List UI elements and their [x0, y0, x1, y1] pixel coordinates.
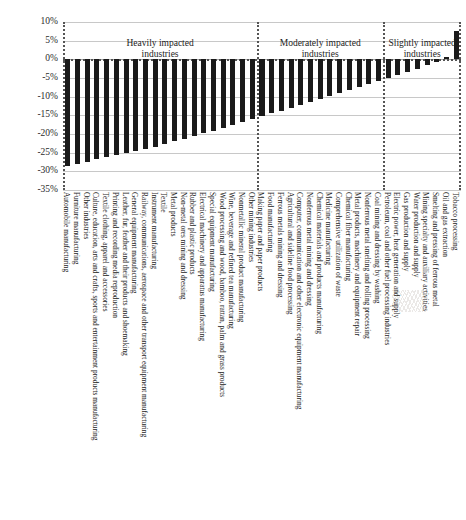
bar	[192, 59, 197, 136]
category-label: Textile	[160, 192, 167, 212]
y-tick-label: -10%	[37, 92, 58, 102]
bar	[347, 59, 352, 90]
bar	[162, 59, 167, 144]
group-title-line: Heavily impacted	[100, 38, 220, 49]
category-label: Oil and gas extraction	[441, 192, 448, 257]
y-tick-label: -20%	[37, 129, 58, 139]
category-label: Ferrous metals mining and dressing	[276, 192, 283, 298]
category-label: Computer, communication and other electr…	[296, 192, 303, 409]
category-label: Gas production and supply	[403, 192, 410, 271]
bar	[153, 59, 158, 146]
category-label: Wood processing and wood, bamboo, rattan…	[218, 192, 225, 397]
bar	[337, 59, 342, 93]
y-tick-label: 10%	[41, 17, 58, 27]
group-title-line: Slightly impacted	[362, 38, 466, 49]
category-label: Chemical materials and products manufact…	[315, 192, 322, 334]
category-label: Printing and recording media reproductio…	[111, 192, 118, 318]
bar	[357, 59, 362, 87]
category-label: Making paper and paper products	[257, 192, 264, 291]
category-label: Leather, fur, feather and their products…	[121, 192, 128, 356]
category-label: Food manufacturing	[267, 192, 274, 252]
category-label: Comprehensive utilization of waste	[335, 192, 342, 297]
page-smudge-artifact	[392, 290, 426, 312]
category-label: Petroleum, coal and other fuel processin…	[383, 192, 390, 345]
category-label: Smelting and pressing of ferrous metal	[432, 192, 439, 307]
bar	[114, 59, 119, 155]
bar	[415, 59, 420, 68]
bar	[250, 59, 255, 119]
bar	[395, 59, 400, 75]
bar	[75, 59, 80, 164]
bar	[405, 59, 410, 72]
bar	[172, 59, 177, 141]
category-label: Agricultural and sideline food processin…	[286, 192, 293, 314]
bar	[259, 59, 264, 116]
category-label: Textile clothing, apparel and accessorie…	[102, 192, 109, 312]
group-title: Heavily impactedindustries	[100, 38, 220, 60]
y-tick-label: -15%	[37, 110, 58, 120]
category-label: Metal products	[170, 192, 177, 237]
bar	[182, 59, 187, 139]
bar	[308, 59, 313, 102]
category-label: Nonferrous metal mining and dressing	[306, 192, 313, 306]
bar	[240, 59, 245, 122]
bar	[279, 59, 284, 111]
bar	[143, 59, 148, 149]
category-label: Nonferrous metal smelting and rolling pr…	[364, 192, 371, 339]
category-label: Tobacco processing	[451, 192, 458, 250]
bar	[124, 59, 129, 153]
bar	[289, 59, 294, 108]
bar	[85, 59, 90, 161]
bar	[65, 59, 70, 165]
category-label: Rubber and plastic products	[189, 192, 196, 275]
bar	[211, 59, 216, 130]
category-label: Instrument manufacturing	[150, 192, 157, 269]
bar	[327, 59, 332, 95]
bar	[298, 59, 303, 105]
category-label: Non-metal ores mining and dressing	[179, 192, 186, 300]
category-label: Chemical fiber manufacturing	[344, 192, 351, 281]
y-axis-tick-labels: 10%5%0%-5%-10%-15%-20%-25%-30%-35%	[0, 22, 58, 190]
category-label: Railway, communications, aerospace and o…	[141, 192, 148, 437]
category-label: Coal mining and dressing by washing	[373, 192, 380, 303]
category-label: General equipment manufacturing	[131, 192, 138, 293]
category-label: Other industries	[82, 192, 89, 239]
bar	[221, 59, 226, 128]
y-tick-label: -25%	[37, 148, 58, 158]
group-title-line: industries	[100, 49, 220, 60]
category-label: Nonmetallic mineral product manufacturin…	[238, 192, 245, 322]
bar	[376, 59, 381, 81]
x-axis-category-labels: Automobile manufacturingFurniture manufa…	[63, 192, 461, 518]
bar	[133, 59, 138, 151]
category-label: Automobile manufacturing	[63, 192, 70, 272]
bar	[230, 59, 235, 125]
category-label: Water production and supply	[412, 192, 419, 277]
bar	[386, 59, 391, 78]
gridline	[63, 190, 461, 191]
category-label: Electrical machinery and apparatus manuf…	[199, 192, 206, 341]
category-label: Metal products, machinery and equipment …	[354, 192, 361, 336]
y-tick-label: -5%	[42, 73, 58, 83]
bar	[425, 59, 430, 65]
category-label: Furniture manufacturing	[73, 192, 80, 264]
bar	[201, 59, 206, 133]
group-title-line: industries	[362, 49, 466, 60]
bar	[318, 59, 323, 99]
bar	[104, 59, 109, 157]
chart-canvas: 10%5%0%-5%-10%-15%-20%-25%-30%-35% Heavi…	[0, 0, 466, 520]
category-label: Other mining industries	[247, 192, 254, 262]
bar	[366, 59, 371, 84]
bar	[269, 59, 274, 113]
y-tick-label: -30%	[37, 166, 58, 176]
bar	[94, 59, 99, 159]
group-title: Slightly impactedindustries	[362, 38, 466, 60]
category-label: Wine, beverage and refined tea manufactu…	[228, 192, 235, 329]
y-tick-label: 0%	[45, 54, 58, 64]
category-label: Special equipment manufacturing	[208, 192, 215, 292]
y-tick-label: -35%	[37, 185, 58, 195]
category-label: Medicine manufacturing	[325, 192, 332, 265]
y-tick-label: 5%	[45, 36, 58, 46]
category-label: Culture, education, arts and crafts, spo…	[92, 192, 99, 440]
